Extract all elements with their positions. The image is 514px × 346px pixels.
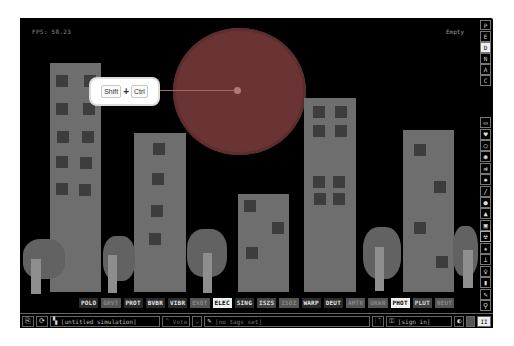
sensor-icon: ◉ [483, 153, 487, 161]
liquid-icon: ● [483, 199, 487, 207]
element-warp[interactable]: WARP [302, 298, 321, 308]
display-mode-c[interactable]: C [480, 75, 491, 86]
clear-button[interactable]: 🗋 [372, 316, 384, 327]
category-electronics[interactable]: ♥ [480, 129, 491, 140]
electronics-icon: ♥ [483, 131, 487, 139]
building [403, 130, 454, 292]
category-favorites[interactable]: ▮ [480, 277, 491, 288]
element-plut[interactable]: PLUT [413, 298, 432, 308]
tags-button[interactable]: ✎ [no tags set] [204, 316, 370, 327]
element-isoz[interactable]: ISOZ [279, 298, 298, 308]
element-grvt[interactable]: GRVT [101, 298, 120, 308]
tree-trunk [31, 259, 41, 294]
element-uran[interactable]: URAN [368, 298, 387, 308]
solid-icon: ▣ [483, 222, 487, 230]
pause-label: II [480, 318, 487, 325]
display-mode-n[interactable]: N [480, 53, 491, 64]
element-elec[interactable]: ELEC [213, 298, 232, 308]
label: A [484, 66, 488, 73]
login-button[interactable]: ⚿ [sign in] [386, 316, 452, 327]
cursor-dot [234, 87, 241, 94]
label: D [484, 44, 488, 51]
fps-counter: FPS: 58.23 [32, 28, 71, 35]
tree-trunk [375, 247, 384, 291]
powered-icon: ○ [483, 142, 487, 150]
label: P [484, 22, 488, 29]
category-force[interactable]: ⇉ [480, 163, 491, 174]
special-icon: ★ [483, 245, 487, 253]
simulation-canvas[interactable]: FPS: 58.23 Empty [20, 18, 478, 297]
element-iszs[interactable]: ISZS [257, 298, 276, 308]
settings-button[interactable]: ◐ [454, 316, 464, 327]
building [238, 194, 289, 292]
category-gases[interactable]: / [480, 186, 491, 197]
reload-button[interactable]: ⟳ [36, 316, 48, 327]
category-decoration[interactable]: ✎ [480, 289, 491, 300]
display-mode-e[interactable]: E [480, 31, 491, 42]
thumbs-up-icon: ⌃ [165, 317, 169, 325]
category-powders[interactable]: ▲ [480, 208, 491, 219]
tags-label: [no tags set] [215, 318, 262, 325]
save-name: [untitled simulation] [61, 318, 137, 325]
element-vibr[interactable]: VIBR [168, 298, 187, 308]
vote-down-button[interactable]: ⌄ [192, 316, 202, 327]
element-deut[interactable]: DEUT [324, 298, 343, 308]
explosive-icon: ✹ [483, 176, 487, 184]
category-walls[interactable]: ▭ [480, 117, 491, 128]
tooltip-leader-line [157, 90, 237, 91]
tree [23, 239, 65, 279]
life-icon: ⊥ [483, 256, 487, 264]
key-icon: ⚿ [389, 317, 394, 325]
display-mode-a[interactable]: A [480, 64, 491, 75]
vote-label: Vote [173, 318, 187, 325]
force-icon: ⇉ [483, 165, 487, 173]
element-amtr[interactable]: AMTR [346, 298, 365, 308]
element-exot[interactable]: EXOT [190, 298, 209, 308]
save-icon: ▚ [53, 317, 57, 325]
display-mode-p[interactable]: P [480, 20, 491, 30]
renderer-button[interactable] [466, 316, 475, 327]
element-bvbr[interactable]: BVBR [146, 298, 165, 308]
hover-element-label: Empty [446, 28, 464, 35]
settings-icon: ◐ [457, 317, 461, 325]
key-plus: + [123, 86, 129, 97]
element-bar: POLO GRVT PROT BVBR VIBR EXOT ELEC SING … [79, 298, 454, 309]
category-special[interactable]: ★ [480, 243, 491, 254]
category-powered[interactable]: ○ [480, 140, 491, 151]
category-radioactive[interactable]: ☢ [480, 231, 491, 242]
category-sensors[interactable]: ◉ [480, 151, 491, 162]
tree-trunk [463, 250, 473, 288]
vote-up-button[interactable]: ⌃ Vote [162, 316, 190, 327]
category-tools[interactable]: ♀ [480, 266, 491, 277]
category-explosives[interactable]: ✹ [480, 174, 491, 185]
key-ctrl: Ctrl [131, 85, 148, 98]
open-button[interactable]: ⎘ [22, 316, 34, 327]
status-bar: ⎘ ⟳ ▚ [untitled simulation] ⌃ Vote ⌄ ✎ [… [20, 313, 493, 328]
element-phot[interactable]: PHOT [391, 298, 410, 308]
decoration-icon: ✎ [483, 291, 487, 299]
category-life[interactable]: ⊥ [480, 254, 491, 265]
category-liquids[interactable]: ● [480, 197, 491, 208]
label: C [484, 77, 488, 84]
element-polo[interactable]: POLO [79, 298, 98, 308]
category-solids[interactable]: ▣ [480, 220, 491, 231]
pause-button[interactable]: II [477, 316, 490, 327]
element-prot[interactable]: PROT [124, 298, 143, 308]
tag-icon: ✎ [207, 317, 211, 325]
building [134, 133, 186, 292]
wall-icon: ▭ [483, 119, 487, 127]
key-shift: Shift [101, 85, 121, 98]
tree-trunk [203, 253, 212, 293]
label: N [484, 55, 488, 62]
display-mode-d[interactable]: D [480, 42, 491, 53]
element-sing[interactable]: SING [235, 298, 254, 308]
login-label: [sign in] [398, 318, 431, 325]
element-neut[interactable]: NEUT [435, 298, 454, 308]
category-search[interactable]: ⚲ [480, 300, 491, 311]
new-file-icon: 🗋 [375, 316, 381, 327]
radioactive-icon: ☢ [483, 233, 487, 241]
shortcut-tooltip: Shift + Ctrl [91, 79, 158, 104]
thumbs-down-icon: ⌄ [195, 317, 199, 325]
reload-icon: ⟳ [39, 317, 45, 325]
save-button[interactable]: ▚ [untitled simulation] [50, 316, 160, 327]
